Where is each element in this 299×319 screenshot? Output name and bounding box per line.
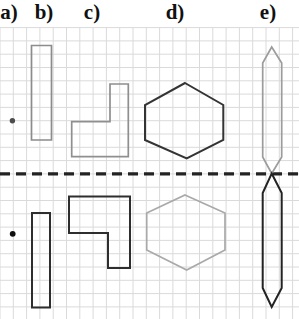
point-a-reflection (10, 231, 16, 237)
point-a-original (10, 118, 15, 123)
rect-b-original (32, 46, 52, 141)
item-labels-row: a) b) c) d) e) (0, 0, 299, 27)
item-label-b: b) (35, 1, 54, 24)
item-label-d: d) (166, 1, 185, 24)
item-label-c: c) (84, 1, 100, 24)
item-label-e: e) (260, 1, 276, 24)
reflection-worksheet: a) b) c) d) e) (0, 0, 299, 319)
figure-canvas (0, 0, 299, 319)
l-shape-c-reflection (69, 197, 130, 269)
item-label-a: a) (0, 1, 18, 24)
